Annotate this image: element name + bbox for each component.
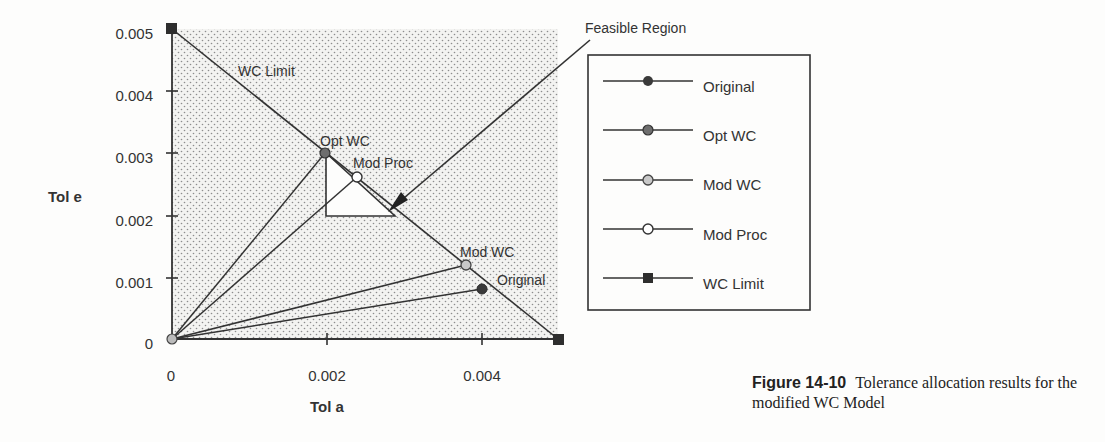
original-annotation: Original: [497, 272, 545, 288]
legend-label: Mod Proc: [703, 226, 768, 243]
x-axis-title: Tol a: [310, 398, 345, 415]
mod-proc-annotation: Mod Proc: [353, 155, 413, 171]
opt-wc-marker: [320, 148, 330, 158]
opt-wc-annotation: Opt WC: [320, 133, 370, 149]
mod-wc-annotation: Mod WC: [460, 244, 514, 260]
y-axis-title: Tol e: [48, 188, 82, 205]
filled-gray-circle-icon: [643, 125, 653, 135]
y-tick-label: 0: [145, 335, 153, 352]
y-tick-label: 0.005: [115, 25, 153, 42]
y-tick-label: 0.001: [115, 274, 153, 291]
filled-dark-circle-icon: [643, 76, 653, 86]
y-tick-label: 0.004: [115, 87, 153, 104]
legend-label: Mod WC: [703, 176, 762, 193]
mod-wc-marker: [461, 260, 471, 270]
x-tick-label: 0: [167, 367, 175, 384]
open-circle-icon: [643, 224, 653, 234]
mod-proc-marker: [352, 172, 362, 182]
legend-box: [588, 55, 810, 310]
original-marker: [477, 284, 487, 294]
filled-square-icon: [643, 273, 653, 283]
legend-label: Opt WC: [703, 127, 757, 144]
light-gray-circle-icon: [643, 175, 653, 185]
x-tick-label: 0.002: [308, 367, 346, 384]
figure-number: Figure 14-10: [752, 374, 846, 391]
legend-label: Original: [703, 78, 755, 95]
origin-marker: [167, 334, 177, 344]
feasible-region-annotation: Feasible Region: [585, 20, 686, 36]
y-tick-label: 0.002: [115, 212, 153, 229]
wc-limit-marker-top: [166, 23, 177, 34]
wc-limit-annotation: WC Limit: [238, 63, 295, 79]
x-tick-label: 0.004: [463, 367, 501, 384]
y-tick-label: 0.003: [115, 149, 153, 166]
legend-label: WC Limit: [703, 275, 765, 292]
figure-caption: Figure 14-10 Tolerance allocation result…: [752, 373, 1102, 413]
wc-limit-marker-right: [553, 334, 564, 345]
